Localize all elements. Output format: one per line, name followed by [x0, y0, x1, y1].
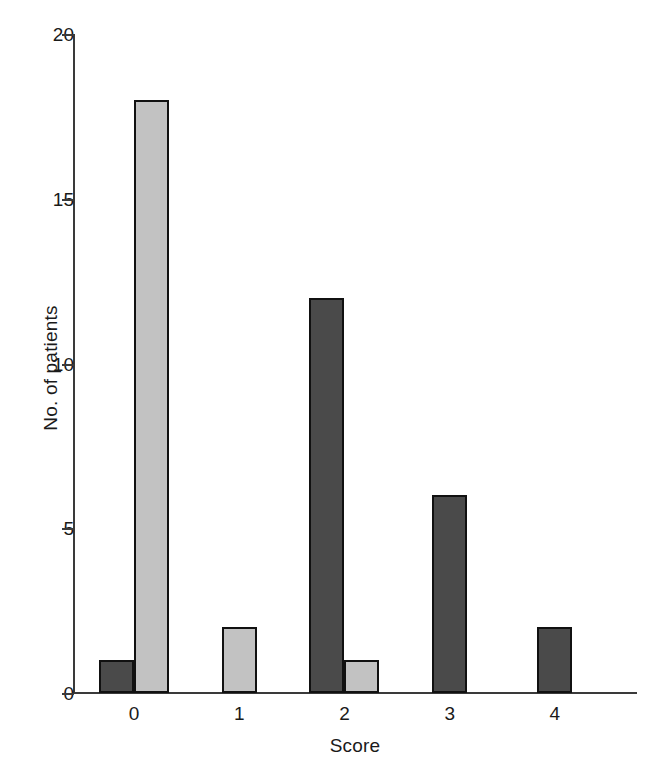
bar-chart: No. of patients 20151050 01234 Score [0, 0, 650, 771]
x-tick-label: 4 [525, 703, 585, 725]
bar-dark-score-0 [99, 660, 134, 693]
bar-light-score-0 [134, 100, 169, 693]
bar-light-score-2 [344, 660, 379, 693]
x-tick-label: 0 [104, 703, 164, 725]
bar-dark-score-4 [537, 627, 572, 693]
bar-light-score-1 [222, 627, 257, 693]
x-tick-label: 1 [209, 703, 269, 725]
x-axis-label: Score [73, 735, 637, 757]
bar-dark-score-2 [309, 298, 344, 693]
x-tick-label: 3 [420, 703, 480, 725]
bar-dark-score-3 [432, 495, 467, 693]
x-tick-label: 2 [314, 703, 374, 725]
plot-area [0, 0, 650, 771]
